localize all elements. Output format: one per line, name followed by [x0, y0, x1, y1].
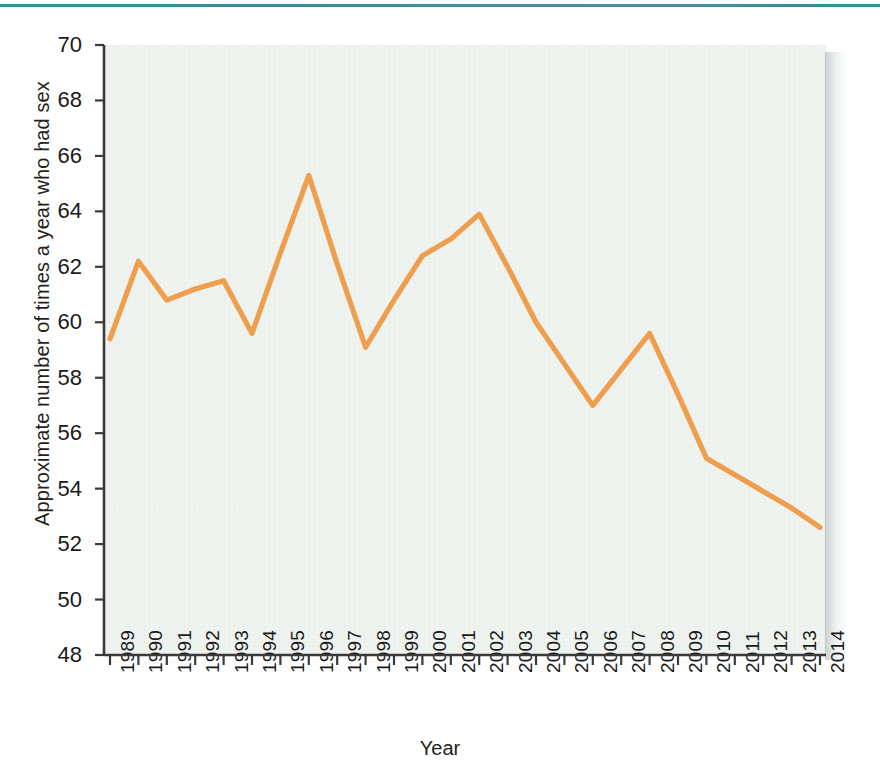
x-axis-title: Year [0, 737, 880, 760]
chart-svg [0, 0, 880, 783]
data-series-line [110, 175, 820, 527]
y-axis-ticks [95, 45, 104, 655]
line-chart-figure: Approximate number of times a year who h… [0, 0, 880, 783]
x-axis-ticks [110, 655, 820, 665]
axis-lines [104, 45, 826, 655]
